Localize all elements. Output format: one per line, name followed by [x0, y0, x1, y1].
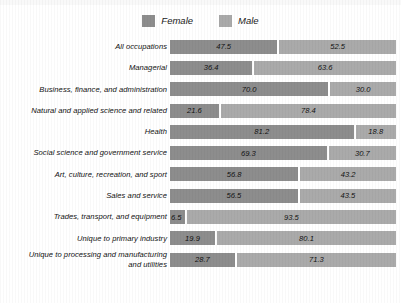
bar-value-male: 52.5 — [330, 42, 345, 51]
bar-value-male: 71.3 — [309, 255, 324, 264]
bar-segment-female: 81.2 — [170, 125, 354, 139]
legend-entry-male: Male — [219, 15, 259, 27]
bar-value-female: 47.5 — [216, 42, 231, 51]
bar-segment-male: 80.1 — [217, 231, 396, 245]
stacked-bar: 56.843.2 — [170, 167, 396, 181]
bar-segment-female: 70.0 — [170, 82, 328, 96]
bar-value-female: 81.2 — [254, 127, 269, 136]
bar-segment-female: 56.8 — [170, 167, 298, 181]
bar-segment-female: 19.9 — [170, 231, 215, 245]
bar-segment-female: 47.5 — [170, 40, 277, 54]
chart-row: All occupations47.552.5 — [0, 36, 401, 57]
stacked-bar: 81.218.8 — [170, 125, 396, 139]
bar-value-male: 93.5 — [284, 213, 299, 222]
bar-segment-male: 93.5 — [187, 210, 396, 224]
stacked-bar: 6.593.5 — [170, 210, 396, 224]
bar-segment-female: 28.7 — [170, 253, 235, 267]
bar-segment-male: 52.5 — [279, 40, 396, 54]
category-label: Unique to primary industry — [0, 234, 167, 243]
bar-segment-male: 18.8 — [356, 125, 397, 139]
stacked-bar: 21.678.4 — [170, 104, 396, 118]
chart-row: Natural and applied science and related2… — [0, 100, 401, 121]
bar-segment-female: 6.5 — [170, 210, 185, 224]
chart-row: Art, culture, recreation, and sport56.84… — [0, 164, 401, 185]
bar-value-female: 36.4 — [204, 63, 219, 72]
bar-value-male: 43.2 — [341, 170, 356, 179]
chart-legend: Female Male — [0, 13, 401, 29]
chart-row: Sales and service56.543.5 — [0, 185, 401, 206]
bar-value-female: 19.9 — [185, 234, 200, 243]
category-label: Social science and government service — [0, 148, 167, 157]
stacked-bar-chart: Female Male All occupations47.552.5Manag… — [0, 0, 401, 303]
stacked-bar: 56.543.5 — [170, 189, 396, 203]
chart-row: Health81.218.8 — [0, 121, 401, 142]
legend-entry-female: Female — [142, 15, 193, 27]
category-label: Unique to processing and manufacturingan… — [0, 250, 167, 269]
chart-row: Managerial36.463.6 — [0, 57, 401, 78]
bar-value-female: 21.6 — [187, 106, 202, 115]
top-edge-artifact — [0, 0, 401, 5]
bar-value-male: 18.8 — [368, 127, 383, 136]
chart-row: Trades, transport, and equipment6.593.5 — [0, 206, 401, 227]
bar-value-male: 80.1 — [299, 234, 314, 243]
category-label: Natural and applied science and related — [0, 106, 167, 115]
bar-value-male: 30.7 — [355, 149, 370, 158]
bar-segment-male: 30.0 — [330, 82, 396, 96]
bar-segment-male: 30.7 — [329, 146, 396, 160]
legend-swatch-male-icon — [219, 15, 232, 27]
bar-segment-male: 78.4 — [221, 104, 396, 118]
bar-value-female: 69.3 — [241, 149, 256, 158]
legend-label-female: Female — [161, 16, 193, 26]
stacked-bar: 28.771.3 — [170, 253, 396, 267]
bar-value-male: 78.4 — [301, 106, 316, 115]
category-label: Health — [0, 127, 167, 136]
stacked-bar: 69.330.7 — [170, 146, 396, 160]
chart-row: Social science and government service69.… — [0, 142, 401, 163]
bar-value-male: 43.5 — [340, 191, 355, 200]
plot-area: All occupations47.552.5Managerial36.463.… — [0, 36, 401, 303]
bar-value-male: 63.6 — [318, 63, 333, 72]
category-label: Business, finance, and administration — [0, 85, 167, 94]
bar-segment-female: 21.6 — [170, 104, 219, 118]
chart-row: Business, finance, and administration70.… — [0, 79, 401, 100]
bar-value-female: 6.5 — [171, 213, 182, 222]
bar-value-male: 30.0 — [356, 85, 371, 94]
bar-value-female: 70.0 — [242, 85, 257, 94]
category-label-line2: and utilities — [128, 260, 167, 269]
category-label: Managerial — [0, 63, 167, 72]
stacked-bar: 47.552.5 — [170, 40, 396, 54]
bar-segment-male: 71.3 — [237, 253, 396, 267]
bar-segment-male: 43.2 — [300, 167, 396, 181]
stacked-bar: 70.030.0 — [170, 82, 396, 96]
chart-row: Unique to primary industry19.980.1 — [0, 228, 401, 249]
stacked-bar: 19.980.1 — [170, 231, 396, 245]
chart-row: Unique to processing and manufacturingan… — [0, 249, 401, 270]
category-label: All occupations — [0, 42, 167, 51]
category-label: Sales and service — [0, 191, 167, 200]
bar-segment-female: 36.4 — [170, 61, 252, 75]
legend-label-male: Male — [238, 16, 259, 26]
bar-segment-female: 69.3 — [170, 146, 327, 160]
bar-segment-male: 63.6 — [254, 61, 396, 75]
bar-value-female: 28.7 — [195, 255, 210, 264]
bar-segment-female: 56.5 — [170, 189, 298, 203]
bar-segment-male: 43.5 — [300, 189, 396, 203]
category-label: Art, culture, recreation, and sport — [0, 170, 167, 179]
legend-swatch-female-icon — [142, 15, 155, 27]
bar-value-female: 56.5 — [226, 191, 241, 200]
bar-value-female: 56.8 — [227, 170, 242, 179]
stacked-bar: 36.463.6 — [170, 61, 396, 75]
category-label: Trades, transport, and equipment — [0, 212, 167, 221]
